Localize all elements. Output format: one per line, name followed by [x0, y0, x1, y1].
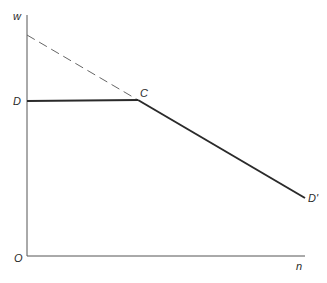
point-c-label: C: [140, 87, 148, 99]
dashed-extension-line: [27, 35, 138, 100]
downward-segment-cd-prime: [138, 100, 305, 198]
diagram-canvas: w n O D C D': [0, 0, 327, 283]
horizontal-segment-dc: [27, 100, 138, 101]
x-axis-label: n: [296, 260, 302, 272]
y-axis-label: w: [13, 10, 22, 22]
point-d-prime-label: D': [308, 192, 319, 204]
point-d-label: D: [13, 95, 21, 107]
origin-label: O: [14, 252, 23, 264]
